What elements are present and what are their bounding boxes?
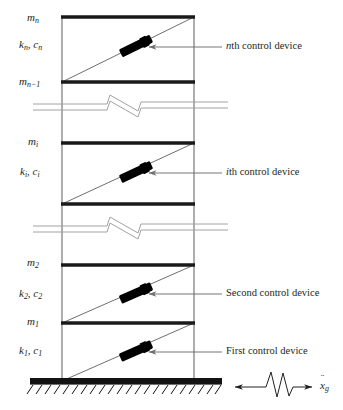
control-device-1[interactable] <box>118 339 153 362</box>
label-mass-n-1: mn−1 <box>19 76 40 89</box>
control-device-n[interactable] <box>118 34 153 59</box>
diagonal-braces <box>62 17 194 381</box>
label-ground-acceleration: ¨xg <box>320 380 329 393</box>
label-mass-n: mn <box>27 12 39 25</box>
label-stiffness-damping-i: ki, ci <box>20 166 40 179</box>
structural-frame-figure: mn kn, cn mn−1 mi ki, ci m2 k2, c2 m1 k1… <box>0 0 343 410</box>
ground-base <box>27 378 222 394</box>
callout-label-nth-control-device: nth control device <box>226 41 302 52</box>
callout-leaders <box>149 47 222 352</box>
callout-label-second-control-device: Second control device <box>226 288 319 299</box>
callout-label-first-control-device: First control device <box>226 346 308 357</box>
label-stiffness-damping-1: k1, c1 <box>19 345 42 358</box>
callout-label-ith-control-device: ith control device <box>226 167 299 178</box>
label-mass-1: m1 <box>27 316 39 329</box>
control-device-2[interactable] <box>118 281 153 304</box>
ground-hatching <box>27 385 221 394</box>
ground-bar <box>30 378 222 385</box>
excitation-zigzag <box>266 372 293 397</box>
ground-excitation-indicator <box>235 372 312 397</box>
device-body-n <box>119 35 153 58</box>
label-mass-i: mi <box>28 136 38 149</box>
control-device-i[interactable] <box>118 160 153 184</box>
label-stiffness-damping-n: kn, cn <box>19 39 42 52</box>
label-mass-2: m2 <box>27 257 39 270</box>
floor-slabs <box>61 17 195 323</box>
label-stiffness-damping-2: k2, c2 <box>19 288 42 301</box>
double-dot-accent: ¨ <box>321 375 324 384</box>
